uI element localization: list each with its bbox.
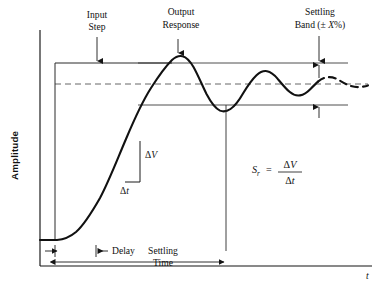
- settling-band-label-line2: Band (± X%): [295, 19, 346, 31]
- formula-numerator: ΔV: [284, 159, 299, 170]
- delta-v-variable: V: [151, 149, 158, 160]
- formula-numerator-variable: V: [290, 159, 298, 170]
- x-axis-label: t: [366, 270, 369, 281]
- delta-t-variable: t: [126, 185, 129, 196]
- annotation-leaders: [45, 36, 319, 262]
- slew-rate-formula: Sr = ΔV Δt: [252, 159, 302, 186]
- step-response-figure: Amplitude t Input Step Output Response S…: [0, 0, 388, 286]
- y-axis-label: Amplitude: [9, 130, 20, 180]
- slew-rate-triangle: [125, 141, 140, 182]
- formula-equals: =: [266, 164, 272, 175]
- settling-time-label-line2: Time: [153, 257, 173, 268]
- delay-label: Delay: [112, 245, 135, 256]
- formula-denominator-variable: t: [292, 175, 296, 186]
- formula-lhs: Sr: [252, 164, 260, 178]
- settling-band-label-line1: Settling: [305, 6, 335, 17]
- delta-t-label: Δt: [120, 185, 129, 196]
- input-step-label-line2: Step: [88, 21, 105, 32]
- delta-v-label: ΔV: [145, 149, 158, 160]
- axes-group: [40, 30, 372, 266]
- output-response-label-line1: Output: [168, 6, 195, 17]
- settling-band-suffix: %): [334, 19, 345, 31]
- input-step-label-line1: Input: [87, 9, 108, 20]
- settling-band-group: [55, 63, 368, 105]
- figure-canvas: Amplitude t Input Step Output Response S…: [0, 0, 388, 286]
- formula-denominator: Δt: [285, 175, 296, 186]
- formula-lhs-subscript: r: [257, 170, 260, 178]
- output-response-label-line2: Response: [163, 19, 200, 30]
- settling-band-prefix: Band (±: [295, 19, 329, 31]
- settling-time-label-line1: Settling: [148, 245, 178, 256]
